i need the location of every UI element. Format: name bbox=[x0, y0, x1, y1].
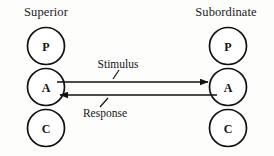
subordinate-node-child[interactable]: C bbox=[210, 110, 247, 147]
subordinate-child-label: C bbox=[224, 122, 233, 136]
subordinate-node-parent[interactable]: P bbox=[210, 28, 247, 65]
subordinate-node-stack: P A C bbox=[210, 28, 247, 147]
superior-node-adult[interactable]: A bbox=[28, 69, 65, 106]
superior-parent-label: P bbox=[42, 40, 49, 54]
column-title-subordinate: Subordinate bbox=[195, 5, 257, 19]
subordinate-adult-label: A bbox=[224, 81, 233, 95]
stimulus-label: Stimulus bbox=[98, 58, 139, 70]
pac-transaction-diagram: Superior Subordinate P A C P bbox=[0, 0, 274, 156]
superior-node-parent[interactable]: P bbox=[28, 28, 65, 65]
column-title-superior: Superior bbox=[24, 5, 69, 19]
diagram-canvas: Superior Subordinate P A C P bbox=[0, 0, 274, 156]
subordinate-node-adult[interactable]: A bbox=[210, 69, 247, 106]
superior-node-child[interactable]: C bbox=[28, 110, 65, 147]
superior-adult-label: A bbox=[42, 81, 51, 95]
subordinate-parent-label: P bbox=[224, 40, 231, 54]
superior-node-stack: P A C bbox=[28, 28, 65, 147]
superior-child-label: C bbox=[42, 122, 51, 136]
response-label: Response bbox=[83, 107, 127, 120]
response-edge[interactable]: Response bbox=[60, 95, 217, 120]
stimulus-edge[interactable]: Stimulus bbox=[57, 58, 208, 82]
stimulus-leader-line bbox=[113, 70, 119, 79]
response-leader-line bbox=[100, 98, 108, 107]
